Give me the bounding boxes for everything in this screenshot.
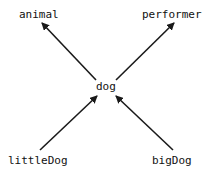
node-animal: animal [19,9,59,21]
edge-bigdog-to-dog [116,96,173,150]
diagram-canvas: animal performer dog littleDog bigDog [0,0,214,173]
node-performer: performer [142,9,202,21]
edge-dog-to-performer [116,23,174,80]
node-dog: dog [96,81,116,93]
edge-littledog-to-dog [40,96,97,150]
node-bigdog: bigDog [152,155,192,167]
node-littledog: littleDog [8,155,68,167]
edge-dog-to-animal [42,23,96,80]
